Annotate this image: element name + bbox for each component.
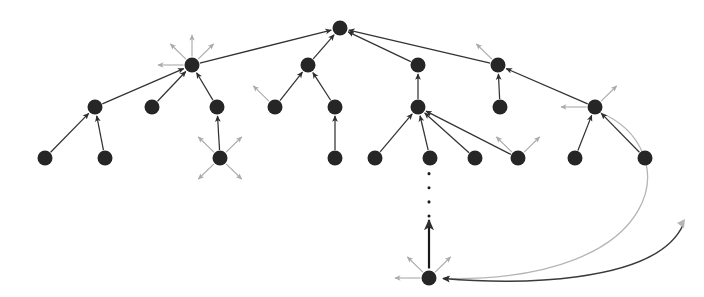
- graph-svg: [0, 0, 704, 297]
- graph-node[interactable]: [423, 151, 438, 166]
- frontier-edge: [435, 257, 450, 272]
- frontier-edge: [198, 44, 213, 59]
- graph-node[interactable]: [333, 21, 348, 36]
- graph-node[interactable]: [588, 100, 603, 115]
- loop-edge-layer: [443, 112, 685, 281]
- frontier-edge: [476, 44, 491, 59]
- diagram-canvas: [0, 0, 704, 297]
- graph-node[interactable]: [145, 100, 160, 115]
- graph-node[interactable]: [411, 58, 426, 73]
- edge: [426, 111, 511, 154]
- loop-edge-tail: [443, 225, 683, 281]
- node-layer: [38, 21, 653, 286]
- graph-node[interactable]: [493, 100, 508, 115]
- frontier-edge: [198, 164, 213, 179]
- graph-node[interactable]: [411, 100, 426, 115]
- graph-node[interactable]: [185, 58, 200, 73]
- frontier-edge: [253, 86, 268, 101]
- graph-node[interactable]: [38, 151, 53, 166]
- edge: [218, 116, 220, 150]
- edge: [313, 35, 334, 59]
- graph-node[interactable]: [98, 151, 113, 166]
- graph-node[interactable]: [491, 58, 506, 73]
- graph-node[interactable]: [568, 151, 583, 166]
- edge: [380, 114, 412, 152]
- graph-node[interactable]: [210, 100, 225, 115]
- graph-node[interactable]: [301, 58, 316, 73]
- edge: [420, 116, 428, 150]
- edge: [348, 32, 411, 62]
- graph-node[interactable]: [328, 151, 343, 166]
- edge: [506, 69, 587, 104]
- frontier-edge: [407, 257, 422, 272]
- frontier-edge: [226, 137, 241, 152]
- graph-node[interactable]: [213, 151, 228, 166]
- graph-node[interactable]: [328, 100, 343, 115]
- graph-node[interactable]: [88, 100, 103, 115]
- frontier-edge: [601, 86, 616, 101]
- frontier-edge: [524, 137, 539, 152]
- graph-node[interactable]: [468, 151, 483, 166]
- graph-node[interactable]: [422, 271, 437, 286]
- graph-node[interactable]: [368, 151, 383, 166]
- graph-node[interactable]: [268, 100, 283, 115]
- edge: [197, 73, 213, 100]
- graph-node[interactable]: [638, 151, 653, 166]
- loop-edge: [443, 112, 647, 279]
- edge: [51, 113, 89, 152]
- edge: [313, 73, 331, 101]
- edge: [97, 116, 104, 150]
- edge: [498, 74, 499, 99]
- edge: [601, 113, 639, 152]
- edge: [280, 72, 303, 101]
- frontier-edge: [226, 164, 241, 179]
- edge: [158, 72, 186, 102]
- frontier-edge: [170, 44, 185, 59]
- frontier-edge: [496, 137, 511, 152]
- edge: [578, 115, 592, 150]
- edge: [425, 113, 469, 153]
- graph-node[interactable]: [511, 151, 526, 166]
- loop-edge-midpoint-arrow-icon: [677, 219, 685, 228]
- edge: [200, 30, 332, 63]
- edge-layer: [51, 30, 640, 268]
- frontier-edge: [198, 137, 213, 152]
